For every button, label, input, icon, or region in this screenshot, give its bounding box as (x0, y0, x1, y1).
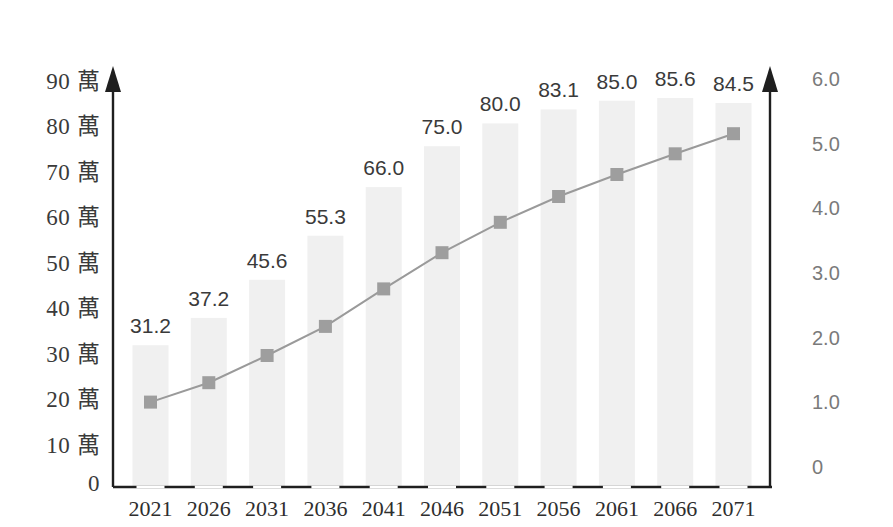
bar-value-label: 37.2 (169, 287, 249, 311)
line-marker (436, 246, 449, 259)
bar-value-label: 55.3 (285, 205, 365, 229)
left-axis-tick-label: 50 萬 (0, 244, 100, 278)
bar (133, 345, 169, 487)
bar (366, 187, 402, 487)
left-axis-tick-label: 80 萬 (0, 107, 100, 141)
right-axis-tick-label: 5.0 (812, 133, 882, 156)
x-axis-category-label: 2071 (694, 496, 774, 522)
bar (599, 101, 635, 487)
bar (716, 103, 752, 487)
line-marker (727, 127, 740, 140)
bar (482, 123, 518, 487)
chart-container: 90 萬80 萬70 萬60 萬50 萬40 萬30 萬20 萬10 萬0 6.… (0, 0, 893, 527)
bar (424, 146, 460, 487)
bar-value-label: 66.0 (344, 156, 424, 180)
left-axis-tick-label: 70 萬 (0, 153, 100, 187)
line-marker (144, 396, 157, 409)
left-axis (105, 66, 121, 487)
bar (191, 318, 227, 487)
left-axis-tick-label: 30 萬 (0, 335, 100, 369)
left-axis-tick-label: 60 萬 (0, 198, 100, 232)
line-marker (610, 168, 623, 181)
right-axis-tick-label: 4.0 (812, 197, 882, 220)
bar-value-label: 45.6 (227, 249, 307, 273)
right-axis-tick-label: 3.0 (812, 262, 882, 285)
line-marker (552, 190, 565, 203)
right-axis-tick-label: 2.0 (812, 327, 882, 350)
left-axis-tick-label: 40 萬 (0, 289, 100, 323)
bar (307, 236, 343, 487)
right-axis (762, 66, 778, 487)
line-marker (202, 376, 215, 389)
line-marker (669, 147, 682, 160)
right-axis-tick-label: 0 (812, 456, 882, 479)
bar (541, 109, 577, 487)
bar-value-label: 31.2 (111, 314, 191, 338)
left-axis-tick-label: 10 萬 (0, 426, 100, 460)
left-axis-tick-label: 0 (0, 471, 100, 497)
line-marker (494, 216, 507, 229)
right-axis-tick-label: 6.0 (812, 68, 882, 91)
line-marker (377, 282, 390, 295)
left-axis-tick-label: 90 萬 (0, 62, 100, 96)
line-marker (261, 349, 274, 362)
right-axis-tick-label: 1.0 (812, 391, 882, 414)
bar-value-label: 75.0 (402, 115, 482, 139)
bar (249, 280, 285, 487)
bar-value-label: 84.5 (694, 72, 774, 96)
left-axis-tick-label: 20 萬 (0, 380, 100, 414)
line-marker (319, 320, 332, 333)
